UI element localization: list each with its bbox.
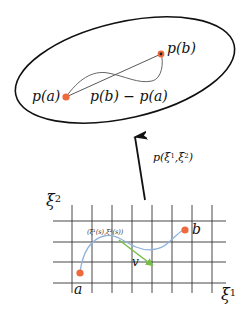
label-p-of-b: p(b) (167, 41, 196, 55)
manifold-ellipse (5, 0, 245, 142)
label-a: a (74, 282, 82, 296)
point-b-dot (181, 226, 188, 233)
point-pa-dot (62, 93, 69, 100)
diagram-canvas (0, 0, 249, 323)
manifold-mapping-diagram: p(a) p(b) p(b) − p(a) p(ξ1,ξ2) ξ2 ξ1 a b… (0, 0, 249, 323)
axis-label-xi1: ξ1 (221, 287, 236, 303)
label-difference: p(b) − p(a) (90, 89, 168, 103)
axis-label-xi2: ξ2 (46, 193, 61, 209)
label-curve-point: (ξ¹(s),ξ²(s)) (87, 229, 123, 236)
point-a-dot (76, 269, 83, 276)
label-tangent-v: v (132, 256, 139, 268)
label-b: b (192, 222, 201, 236)
mapping-arrow (135, 137, 145, 200)
label-p-of-a: p(a) (32, 89, 60, 103)
label-mapping: p(ξ1,ξ2) (153, 152, 193, 163)
parameter-grid (53, 205, 226, 293)
